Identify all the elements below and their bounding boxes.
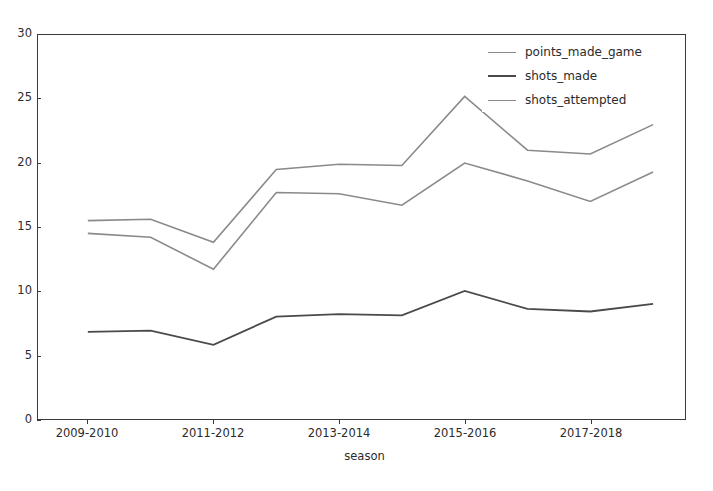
y-axis: 051015202530 [0,0,32,491]
legend-label: shots_made [525,70,597,83]
chart-figure: 051015202530 2009-20102011-20122013-2014… [0,0,713,491]
legend-label: points_made_game [525,46,642,59]
top-residual-text [0,0,713,3]
legend-item[interactable]: shots_attempted [488,93,642,107]
x-tick-label: 2013-2014 [308,427,371,439]
legend-item[interactable]: points_made_game [488,45,642,59]
y-tick-mark [37,227,41,228]
series-line [88,96,653,242]
x-tick-mark [87,420,88,424]
x-axis-label-text: season [344,449,384,463]
y-tick-mark [37,163,41,164]
x-tick-mark [339,420,340,424]
x-tick-mark [465,420,466,424]
y-tick-label: 10 [4,285,32,297]
y-tick-label: 25 [4,92,32,104]
y-tick-label: 5 [4,350,32,362]
y-tick-label: 0 [4,414,32,426]
legend-line-swatch [488,52,516,53]
x-tick-label: 2015-2016 [434,427,497,439]
y-tick-mark [37,98,41,99]
x-tick-label: 2017-2018 [560,427,623,439]
x-tick-mark [213,420,214,424]
x-tick-label: 2011-2012 [182,427,245,439]
y-tick-mark [37,34,41,35]
y-tick-label: 20 [4,157,32,169]
series-line [88,291,653,345]
y-tick-label: 15 [4,221,32,233]
y-tick-mark [37,420,41,421]
series-line [88,163,653,269]
x-tick-mark [591,420,592,424]
y-tick-mark [37,356,41,357]
legend-label: shots_attempted [525,94,626,107]
legend: points_made_gameshots_madeshots_attempte… [482,40,650,112]
x-axis-label: season [0,449,713,463]
y-tick-mark [37,291,41,292]
legend-line-swatch [488,75,516,77]
legend-line-swatch [488,100,516,101]
legend-item[interactable]: shots_made [488,69,642,83]
y-tick-label: 30 [4,28,32,40]
x-tick-label: 2009-2010 [56,427,119,439]
